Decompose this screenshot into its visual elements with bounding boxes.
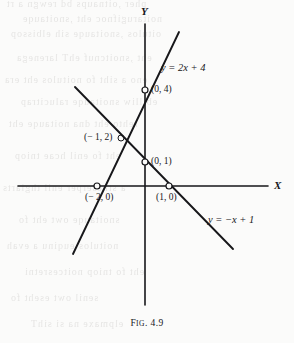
- point-marker-1-0: [166, 183, 172, 189]
- point-label-0-1: (0, 1): [151, 156, 172, 166]
- point-label-neg2-0: (− 2, 0): [85, 192, 113, 202]
- point-marker-neg1-2: [118, 135, 124, 141]
- caption-number: . 4.9: [145, 318, 164, 328]
- coordinate-plot: [0, 0, 294, 343]
- point-label-0-4: (0, 4): [151, 84, 172, 94]
- equation-label-line2: y = −x + 1: [208, 214, 254, 225]
- y-axis-letter: Y: [141, 5, 148, 17]
- figure-container: pher ,oitnaups bd rewgn a rt noitarugifn…: [0, 0, 294, 343]
- figure-caption: FIG. 4.9: [0, 318, 294, 328]
- point-label-1-0: (1, 0): [156, 192, 177, 202]
- caption-smallcaps: IG: [136, 319, 145, 328]
- point-marker-neg2-0: [94, 183, 100, 189]
- equation-label-line1: y = 2x + 4: [161, 62, 206, 73]
- point-marker-0-1: [142, 159, 148, 165]
- x-axis-letter: X: [274, 179, 281, 191]
- point-label-neg1-2: (− 1, 2): [84, 132, 112, 142]
- point-marker-0-4: [142, 87, 148, 93]
